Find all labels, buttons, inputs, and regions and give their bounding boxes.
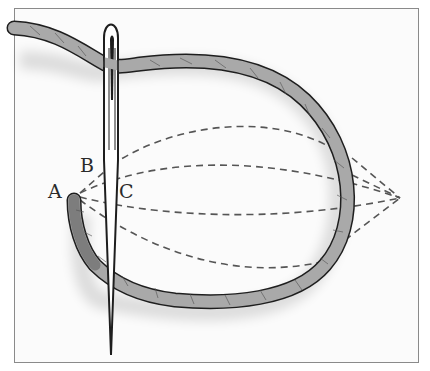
label-a: A <box>48 182 62 201</box>
label-b: B <box>80 156 94 175</box>
stitch-illustration <box>0 0 430 371</box>
shadow <box>20 60 339 312</box>
label-c: C <box>119 182 134 201</box>
figure: B A C <box>0 0 430 371</box>
